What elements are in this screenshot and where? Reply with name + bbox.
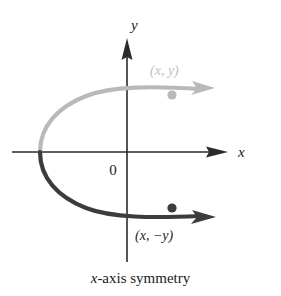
lower-branch-point-marker (167, 203, 176, 212)
origin-label: 0 (109, 162, 117, 178)
upper-point-label: (x, y) (150, 63, 179, 79)
y-axis-arrowhead (122, 38, 133, 60)
figure-container: y x 0 (x, y) (x, −y) x-axis symmetry (0, 0, 281, 296)
x-axis-label: x (237, 144, 245, 160)
y-axis-label: y (129, 17, 138, 33)
lower-branch-group (40, 152, 216, 224)
lower-point-label: (x, −y) (135, 228, 174, 244)
symmetry-diagram: y x 0 (x, y) (x, −y) (0, 0, 281, 296)
figure-caption: x-axis symmetry (0, 268, 281, 288)
caption-remainder: -axis symmetry (97, 270, 190, 286)
x-axis-arrowhead (206, 147, 228, 158)
axes-group (12, 38, 228, 262)
upper-branch-point-marker (167, 90, 176, 99)
